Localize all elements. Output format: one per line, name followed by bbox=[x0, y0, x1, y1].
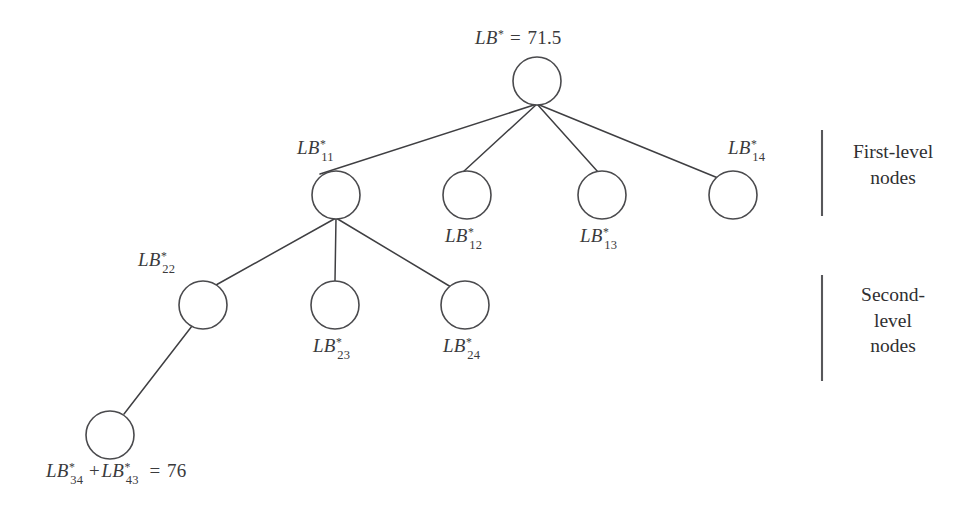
n13-subscript: 13 bbox=[604, 238, 617, 252]
n34-43-value: 76 bbox=[167, 460, 186, 481]
node-n23[interactable] bbox=[311, 281, 359, 329]
node-label-n12: LB*12 bbox=[445, 226, 487, 245]
edge-n11-to-n23 bbox=[335, 218, 336, 281]
node-label-n24: LB*24 bbox=[443, 336, 485, 355]
node-label-n11: LB*11 bbox=[297, 138, 338, 157]
n43-subscript: 43 bbox=[126, 473, 139, 487]
n34-43-operator: + bbox=[88, 460, 102, 481]
n34-symbol: LB bbox=[46, 460, 69, 481]
n22-symbol: LB bbox=[138, 249, 161, 270]
root-label-star: * bbox=[498, 28, 504, 41]
n12-subscript: 12 bbox=[469, 238, 482, 252]
n23-symbol: LB bbox=[313, 335, 336, 356]
root-label-value: 71.5 bbox=[528, 27, 562, 48]
n12-symbol: LB bbox=[445, 225, 468, 246]
n34-subscript: 34 bbox=[70, 473, 83, 487]
edge-n11-to-n24 bbox=[336, 218, 451, 287]
node-n13[interactable] bbox=[578, 171, 626, 219]
annotation-first-level-nodes: First-level nodes bbox=[838, 139, 948, 190]
node-n14[interactable] bbox=[709, 171, 757, 219]
n24-subscript: 24 bbox=[467, 348, 480, 362]
n43-symbol: LB bbox=[102, 460, 125, 481]
n13-symbol: LB bbox=[580, 225, 603, 246]
node-n22[interactable] bbox=[179, 281, 227, 329]
n14-symbol: LB bbox=[728, 137, 751, 158]
node-label-n14: LB*14 bbox=[728, 138, 770, 157]
edge-n11-to-n22 bbox=[216, 218, 336, 285]
n14-subscript: 14 bbox=[752, 150, 765, 164]
node-label-n13: LB*13 bbox=[580, 226, 622, 245]
n34-43-equals: = bbox=[143, 460, 167, 481]
edge-n22-to-n34-43 bbox=[124, 326, 192, 414]
edge-root-to-n11 bbox=[320, 104, 537, 174]
node-label-root: LB* = 71.5 bbox=[475, 28, 562, 47]
root-label-equals: = bbox=[504, 27, 528, 48]
branch-and-bound-tree-diagram: LB* = 71.5 LB*11 LB*12 LB*13 LB*14 LB*22… bbox=[0, 0, 957, 511]
edge-root-to-n12 bbox=[463, 104, 537, 172]
root-label-symbol: LB bbox=[475, 27, 498, 48]
tree-nodes bbox=[86, 57, 757, 459]
node-n34-43[interactable] bbox=[86, 411, 134, 459]
annotation-second-level-nodes: Second- level nodes bbox=[838, 282, 948, 359]
n24-symbol: LB bbox=[443, 335, 466, 356]
tree-edges bbox=[124, 104, 718, 414]
n23-subscript: 23 bbox=[337, 348, 350, 362]
node-n12[interactable] bbox=[443, 171, 491, 219]
n11-subscript: 11 bbox=[321, 150, 333, 164]
edge-root-to-n13 bbox=[537, 104, 598, 172]
node-label-n23: LB*23 bbox=[313, 336, 355, 355]
node-root[interactable] bbox=[513, 57, 561, 105]
node-n24[interactable] bbox=[441, 281, 489, 329]
node-label-n34-43: LB*34+LB*43 = 76 bbox=[46, 461, 186, 480]
n22-subscript: 22 bbox=[162, 262, 175, 276]
n11-symbol: LB bbox=[297, 137, 320, 158]
node-label-n22: LB*22 bbox=[138, 250, 180, 269]
node-n11[interactable] bbox=[312, 171, 360, 219]
edge-root-to-n14 bbox=[537, 104, 718, 178]
